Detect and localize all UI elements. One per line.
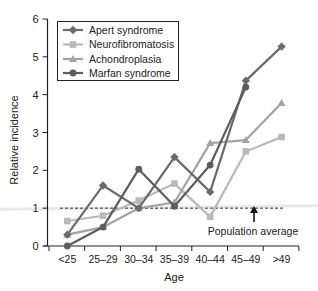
y-axis: 0123456	[32, 13, 47, 252]
x-tick-label: 40–44	[196, 253, 225, 265]
x-tick-label: >49	[273, 253, 291, 265]
x-tick-label: 30–34	[124, 253, 153, 265]
x-tick-label: <25	[58, 253, 76, 265]
y-tick-label: 6	[32, 13, 38, 25]
legend: Apert syndromeNeurofibromatosisAchondrop…	[58, 22, 179, 81]
chart-canvas: 0123456 <2525–2930–3435–3940–4445–49>49 …	[0, 0, 318, 291]
x-axis-label: Age	[164, 271, 184, 283]
y-axis-label: Relative incidence	[8, 95, 20, 184]
legend-label: Marfan syndrome	[89, 67, 171, 79]
legend-label: Apert syndrome	[89, 24, 163, 36]
legend-label: Neurofibromatosis	[89, 38, 174, 50]
x-tick-label: 45–49	[231, 253, 260, 265]
legend-label: Achondroplasia	[89, 53, 162, 65]
y-tick-label: 3	[32, 127, 38, 139]
y-tick-label: 1	[32, 202, 38, 214]
y-tick-label: 5	[32, 51, 38, 63]
x-tick-label: 25–29	[88, 253, 117, 265]
y-tick-label: 4	[32, 89, 38, 101]
population-average-label: Population average	[208, 225, 299, 237]
x-axis: <2525–2930–3435–3940–4445–49>49	[44, 246, 299, 265]
x-tick-label: 35–39	[160, 253, 189, 265]
y-tick-label: 0	[32, 240, 38, 252]
y-tick-label: 2	[32, 164, 38, 176]
line-chart: 0123456 <2525–2930–3435–3940–4445–49>49 …	[0, 0, 318, 291]
